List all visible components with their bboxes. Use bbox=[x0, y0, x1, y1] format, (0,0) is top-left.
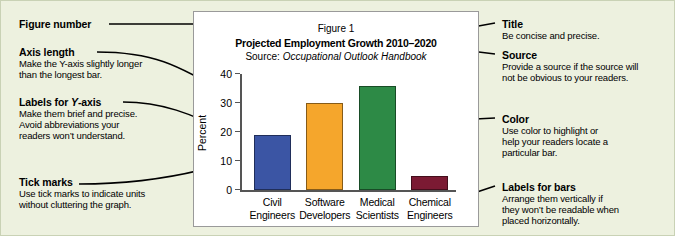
x-label-medical-scientists: MedicalScientists bbox=[351, 196, 404, 221]
y-tick-label-10: 10 bbox=[220, 155, 232, 167]
annotation-tick-marks-line-2: without cluttering the graph. bbox=[19, 199, 145, 210]
bar-software-developers[interactable] bbox=[306, 103, 343, 190]
x-label-civil-engineers: CivilEngineers bbox=[246, 196, 299, 221]
y-tick-40 bbox=[235, 73, 240, 74]
y-tick-0 bbox=[235, 189, 240, 190]
x-axis-line bbox=[240, 190, 456, 192]
y-tick-10 bbox=[235, 160, 240, 161]
annotation-axis-length-line-1: Make the Y-axis slightly longer bbox=[19, 58, 142, 69]
annotation-y-labels-line-1: Make them brief and precise. bbox=[19, 108, 137, 119]
chart-source-prefix: Source: bbox=[245, 51, 282, 62]
annotation-title: Title Be concise and precise. bbox=[502, 18, 599, 41]
x-label-software-developers: SoftwareDevelopers bbox=[299, 196, 352, 221]
annotation-color-line-1: Use color to highlight or bbox=[502, 125, 608, 136]
y-tick-label-0: 0 bbox=[226, 184, 232, 196]
annotation-axis-length-heading: Axis length bbox=[19, 46, 142, 58]
annotation-color-line-2: help your readers locate a bbox=[502, 136, 608, 147]
annotation-source-heading: Source bbox=[502, 49, 638, 61]
annotation-y-labels-heading-italic: Y bbox=[71, 96, 78, 108]
annotation-axis-length-line-2: than the longest bar. bbox=[19, 69, 142, 80]
annotation-y-labels-heading-tail: -axis bbox=[78, 96, 101, 108]
x-label-line: Engineers bbox=[246, 209, 299, 222]
annotation-tick-marks-heading: Tick marks bbox=[19, 176, 145, 188]
figure-root: Figure number Axis length Make the Y-axi… bbox=[0, 0, 675, 236]
annotation-tick-marks: Tick marks Use tick marks to indicate un… bbox=[19, 176, 145, 210]
annotation-source: Source Provide a source if the source wi… bbox=[502, 49, 638, 83]
x-label-line: Chemical bbox=[404, 196, 457, 209]
annotation-color-heading: Color bbox=[502, 113, 608, 125]
x-label-line: Civil bbox=[246, 196, 299, 209]
annotation-tick-marks-line-1: Use tick marks to indicate units bbox=[19, 188, 145, 199]
chart-source-name: Occupational Outlook Handbook bbox=[283, 51, 427, 62]
chart-figure-number: Figure 1 bbox=[194, 23, 478, 34]
annotation-color-line-3: particular bar. bbox=[502, 147, 608, 158]
x-label-line: Software bbox=[299, 196, 352, 209]
annotation-y-labels-line-2: Avoid abbreviations your bbox=[19, 119, 137, 130]
chart-plot-area: Percent 010203040 CivilEngineersSoftware… bbox=[240, 74, 456, 192]
bar-medical-scientists[interactable] bbox=[359, 86, 396, 191]
y-tick-label-20: 20 bbox=[220, 126, 232, 138]
annotation-y-labels: Labels for Y-axis Make them brief and pr… bbox=[19, 96, 137, 142]
annotation-figure-number-heading: Figure number bbox=[19, 18, 91, 30]
annotation-labels-for-bars-line-1: Arrange them vertically if bbox=[502, 193, 619, 204]
annotation-labels-for-bars-heading: Labels for bars bbox=[502, 181, 619, 193]
x-label-line: Scientists bbox=[351, 209, 404, 222]
annotation-figure-number: Figure number bbox=[19, 18, 91, 30]
chart-title: Projected Employment Growth 2010–2020 bbox=[194, 37, 478, 49]
y-tick-30 bbox=[235, 102, 240, 103]
annotation-labels-for-bars-line-2: they won’t be readable when bbox=[502, 204, 619, 215]
annotation-title-line-1: Be concise and precise. bbox=[502, 30, 599, 41]
y-tick-20 bbox=[235, 131, 240, 132]
annotation-color: Color Use color to highlight or help you… bbox=[502, 113, 608, 159]
x-label-line: Developers bbox=[299, 209, 352, 222]
annotation-source-line-1: Provide a source if the source will bbox=[502, 61, 638, 72]
annotation-y-labels-heading-plain: Labels for bbox=[19, 96, 71, 108]
annotation-title-heading: Title bbox=[502, 18, 599, 30]
bar-chemical-engineers[interactable] bbox=[411, 176, 448, 191]
x-label-line: Medical bbox=[351, 196, 404, 209]
x-label-chemical-engineers: ChemicalEngineers bbox=[404, 196, 457, 221]
x-label-line: Engineers bbox=[404, 209, 457, 222]
y-axis-line bbox=[240, 74, 242, 192]
annotation-source-line-2: not be obvious to your readers. bbox=[502, 72, 638, 83]
chart-source: Source: Occupational Outlook Handbook bbox=[194, 51, 478, 62]
bar-civil-engineers[interactable] bbox=[254, 135, 291, 190]
annotation-y-labels-line-3: readers won’t understand. bbox=[19, 130, 137, 141]
annotation-axis-length: Axis length Make the Y-axis slightly lon… bbox=[19, 46, 142, 80]
annotation-labels-for-bars: Labels for bars Arrange them vertically … bbox=[502, 181, 619, 227]
annotation-y-labels-heading: Labels for Y-axis bbox=[19, 96, 137, 108]
chart-panel: Figure 1 Projected Employment Growth 201… bbox=[193, 11, 479, 227]
y-axis-title: Percent bbox=[196, 115, 208, 151]
y-tick-label-40: 40 bbox=[220, 68, 232, 80]
annotation-labels-for-bars-line-3: placed horizontally. bbox=[502, 215, 619, 226]
y-tick-label-30: 30 bbox=[220, 97, 232, 109]
